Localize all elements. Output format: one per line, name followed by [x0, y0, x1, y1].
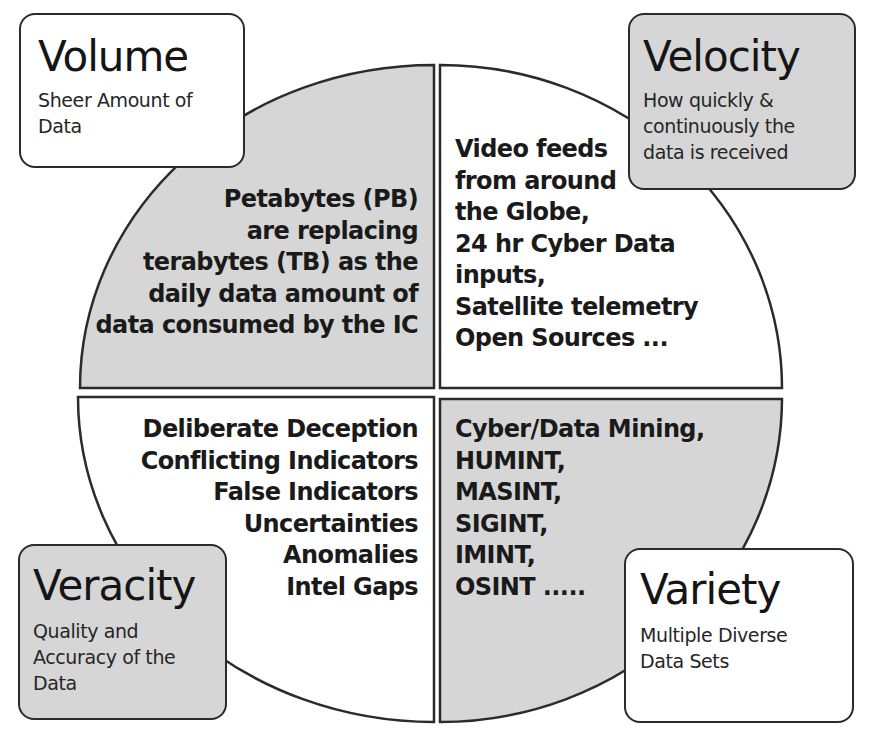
- variety-detail-line: HUMINT,: [455, 446, 704, 478]
- veracity-subtitle-line: Accuracy of the: [33, 644, 225, 670]
- variety-callout: Variety Multiple Diverse Data Sets: [624, 548, 854, 723]
- volume-subtitle: Sheer Amount of Data: [38, 87, 243, 139]
- velocity-title: Velocity: [643, 33, 854, 81]
- variety-subtitle: Multiple Diverse Data Sets: [640, 622, 852, 674]
- velocity-detail-line: 24 hr Cyber Data: [455, 229, 698, 261]
- veracity-subtitle: Quality and Accuracy of the Data: [33, 618, 225, 696]
- variety-detail-line: MASINT,: [455, 477, 704, 509]
- velocity-detail-line: Open Sources ...: [455, 323, 698, 355]
- variety-title: Variety: [640, 566, 852, 614]
- veracity-detail-line: False Indicators: [141, 477, 418, 509]
- velocity-subtitle-line: How quickly &: [643, 87, 854, 113]
- volume-detail-line: terabytes (TB) as the: [95, 247, 418, 279]
- velocity-subtitle-line: data is received: [643, 139, 854, 165]
- variety-detail-line: SIGINT,: [455, 509, 704, 541]
- veracity-detail-line: Conflicting Indicators: [141, 446, 418, 478]
- volume-subtitle-line: Sheer Amount of: [38, 87, 243, 113]
- velocity-subtitle: How quickly & continuously the data is r…: [643, 87, 854, 165]
- volume-detail-line: data consumed by the IC: [95, 310, 418, 342]
- veracity-subtitle-line: Quality and: [33, 618, 225, 644]
- veracity-subtitle-line: Data: [33, 670, 225, 696]
- velocity-detail-line: Satellite telemetry: [455, 292, 698, 324]
- velocity-detail-line: the Globe,: [455, 197, 698, 229]
- volume-subtitle-line: Data: [38, 113, 243, 139]
- velocity-callout: Velocity How quickly & continuously the …: [628, 13, 856, 190]
- volume-detail-line: are replacing: [95, 216, 418, 248]
- volume-callout: Volume Sheer Amount of Data: [19, 13, 245, 168]
- variety-detail-line: Cyber/Data Mining,: [455, 414, 704, 446]
- veracity-detail-line: Uncertainties: [141, 509, 418, 541]
- volume-detail-line: Petabytes (PB): [95, 184, 418, 216]
- variety-subtitle-line: Multiple Diverse: [640, 622, 852, 648]
- volume-title: Volume: [38, 33, 243, 81]
- variety-subtitle-line: Data Sets: [640, 648, 852, 674]
- veracity-title: Veracity: [33, 562, 225, 610]
- velocity-detail-line: inputs,: [455, 260, 698, 292]
- quadrant-top-left-text: Petabytes (PB) are replacing terabytes (…: [95, 184, 418, 342]
- volume-detail-line: daily data amount of: [95, 279, 418, 311]
- velocity-subtitle-line: continuously the: [643, 113, 854, 139]
- veracity-callout: Veracity Quality and Accuracy of the Dat…: [18, 544, 227, 720]
- veracity-detail-line: Deliberate Deception: [141, 414, 418, 446]
